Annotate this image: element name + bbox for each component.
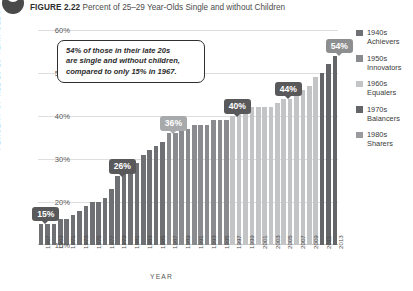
x-axis-tick-label: 1977 bbox=[108, 235, 115, 249]
bar bbox=[141, 155, 146, 245]
bar bbox=[154, 146, 159, 245]
bar bbox=[313, 77, 318, 245]
x-axis-tick-label: 2005 bbox=[286, 235, 293, 249]
y-axis-tick-label: 20% bbox=[36, 198, 70, 207]
legend-decade: 1960s bbox=[367, 79, 413, 88]
x-axis-tick-label: 1995 bbox=[223, 235, 230, 249]
callout-box: 54% of those in their late 20s are singl… bbox=[57, 40, 205, 83]
x-axis-tick-label: 1981 bbox=[133, 235, 140, 249]
y-axis-tick-label: 40% bbox=[36, 112, 70, 121]
legend-swatch-icon bbox=[356, 30, 363, 37]
x-axis-tick-label: 1999 bbox=[248, 235, 255, 249]
circle-badge-icon bbox=[2, 0, 24, 14]
figure-label: FIGURE 2.22 bbox=[30, 3, 80, 12]
figure-header: FIGURE 2.22 Percent of 25–29 Year-Olds S… bbox=[30, 2, 409, 13]
bar bbox=[243, 112, 248, 245]
legend-name: Equalers bbox=[367, 88, 413, 97]
bar bbox=[186, 129, 191, 245]
bar bbox=[167, 133, 172, 245]
x-axis-tick-label: 1973 bbox=[82, 235, 89, 249]
bar bbox=[288, 99, 293, 245]
bar bbox=[326, 64, 331, 245]
bar bbox=[198, 125, 203, 245]
x-axis-tick-label: 1975 bbox=[95, 235, 102, 249]
legend-swatch-icon bbox=[356, 132, 363, 139]
bar bbox=[128, 168, 133, 245]
bar bbox=[320, 73, 325, 245]
x-axis-tick-label: 1987 bbox=[171, 235, 178, 249]
y-axis-tick-label: 10% bbox=[36, 241, 70, 250]
legend-swatch-icon bbox=[356, 106, 363, 113]
x-axis-tick-label: 1985 bbox=[159, 235, 166, 249]
bar bbox=[218, 120, 223, 245]
bar bbox=[224, 120, 229, 245]
x-axis-tick-label: 1993 bbox=[210, 235, 217, 249]
x-axis-tick-label: 1983 bbox=[146, 235, 153, 249]
x-axis-tick-label: 1989 bbox=[184, 235, 191, 249]
bar bbox=[179, 129, 184, 245]
legend-item[interactable]: 1980sSharers bbox=[356, 130, 413, 148]
bar bbox=[160, 142, 165, 245]
bar bbox=[294, 95, 299, 246]
legend-item[interactable]: 1940sAchievers bbox=[356, 28, 413, 46]
x-axis-tick-label: 2001 bbox=[261, 235, 268, 249]
bar bbox=[250, 107, 255, 245]
chart-legend: 1940sAchievers1950sInnovators1960sEquale… bbox=[356, 28, 413, 156]
legend-name: Sharers bbox=[367, 139, 413, 148]
value-badge: 26% bbox=[109, 159, 136, 174]
legend-decade: 1980s bbox=[367, 130, 413, 139]
x-axis-tick-label: 2011 bbox=[325, 236, 332, 249]
y-axis-title: PERCENT OF ALL 25-29 YEAR OLDS bbox=[0, 10, 1, 150]
x-axis-tick-label: 1979 bbox=[120, 235, 127, 249]
legend-swatch-icon bbox=[356, 55, 363, 62]
y-axis-tick-label: 60% bbox=[36, 26, 70, 35]
legend-decade: 1970s bbox=[367, 105, 413, 114]
legend-swatch-icon bbox=[356, 81, 363, 88]
legend-decade: 1940s bbox=[367, 28, 413, 37]
callout-line-2: are single and without children, bbox=[66, 56, 197, 66]
bar bbox=[301, 90, 306, 245]
bar bbox=[275, 103, 280, 245]
x-axis-tick-label: 1971 bbox=[69, 235, 76, 249]
bar bbox=[230, 116, 235, 245]
legend-item[interactable]: 1970sBalancers bbox=[356, 105, 413, 123]
bar bbox=[103, 198, 108, 245]
bar bbox=[262, 107, 267, 245]
y-axis-tick-label: 30% bbox=[36, 155, 70, 164]
bar bbox=[237, 112, 242, 245]
bar bbox=[147, 150, 152, 245]
x-axis-tick-label: 2007 bbox=[299, 235, 306, 249]
bar bbox=[211, 120, 216, 245]
legend-item[interactable]: 1950sInnovators bbox=[356, 54, 413, 72]
bar bbox=[269, 107, 274, 245]
bar bbox=[256, 107, 261, 245]
bar bbox=[205, 125, 210, 245]
x-axis-tick-label: 1967 bbox=[44, 235, 51, 249]
figure-container: FIGURE 2.22 Percent of 25–29 Year-Olds S… bbox=[0, 0, 413, 291]
legend-name: Innovators bbox=[367, 63, 413, 72]
x-axis-tick-label: 1997 bbox=[235, 235, 242, 249]
bar bbox=[192, 125, 197, 245]
legend-name: Balancers bbox=[367, 114, 413, 123]
x-axis-title: YEAR bbox=[150, 273, 173, 280]
bar bbox=[135, 163, 140, 245]
legend-item[interactable]: 1960sEqualers bbox=[356, 79, 413, 97]
value-badge: 36% bbox=[160, 116, 187, 131]
bar bbox=[173, 133, 178, 245]
x-axis-tick-label: 2003 bbox=[274, 235, 281, 249]
bar bbox=[333, 56, 338, 245]
legend-name: Achievers bbox=[367, 37, 413, 46]
callout-line-3: compared to only 15% in 1967. bbox=[66, 67, 197, 77]
value-badge: 44% bbox=[275, 82, 302, 97]
callout-line-1: 54% of those in their late 20s bbox=[66, 46, 197, 56]
value-badge: 54% bbox=[326, 39, 353, 54]
figure-caption: Percent of 25–29 Year-Olds Single and wi… bbox=[83, 3, 286, 12]
value-badge: 15% bbox=[32, 207, 59, 222]
bar bbox=[281, 99, 286, 245]
x-axis-tick-label: 1969 bbox=[57, 235, 64, 249]
value-badge: 40% bbox=[224, 99, 251, 114]
x-axis-tick-label: 2013 bbox=[337, 235, 344, 249]
legend-decade: 1950s bbox=[367, 54, 413, 63]
x-axis-tick-label: 1991 bbox=[197, 235, 204, 249]
x-axis-tick-label: 2009 bbox=[312, 235, 319, 249]
